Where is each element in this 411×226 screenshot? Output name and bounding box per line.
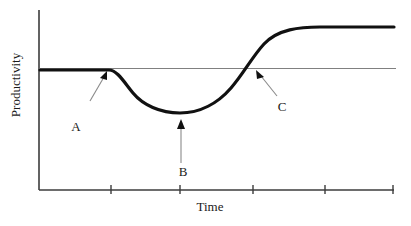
annotation-arrow-c <box>256 70 277 96</box>
productivity-curve <box>40 27 394 113</box>
chart-canvas <box>0 0 411 226</box>
annotation-label-a: A <box>66 119 86 135</box>
productivity-over-time-chart: Productivity Time A B C <box>0 0 411 226</box>
annotation-arrow-b <box>177 119 185 163</box>
annotation-label-b: B <box>173 164 193 180</box>
annotation-label-c: C <box>272 99 292 115</box>
x-axis-label: Time <box>160 199 260 215</box>
annotation-arrow-a <box>90 71 107 101</box>
y-axis-label: Productivity <box>8 35 24 135</box>
